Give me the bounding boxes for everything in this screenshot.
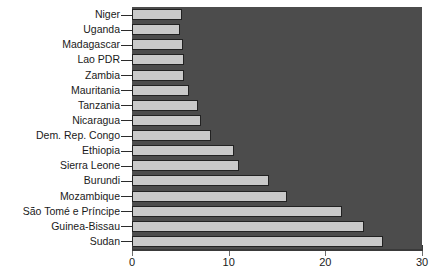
bar bbox=[132, 236, 383, 247]
category-label: Dem. Rep. Congo bbox=[0, 130, 120, 141]
category-tick bbox=[121, 105, 132, 106]
bar bbox=[132, 160, 239, 171]
category-tick bbox=[121, 226, 132, 227]
category-tick bbox=[121, 241, 132, 242]
bar bbox=[132, 115, 201, 126]
category-tick bbox=[121, 196, 132, 197]
category-tick bbox=[121, 120, 132, 121]
category-label: Sierra Leone bbox=[0, 160, 120, 171]
x-tick-label: 10 bbox=[223, 256, 235, 268]
category-tick bbox=[121, 30, 132, 31]
bar bbox=[132, 100, 198, 111]
bar bbox=[132, 206, 342, 217]
category-tick bbox=[121, 15, 132, 16]
plot-area bbox=[132, 7, 422, 249]
category-label: Lao PDR bbox=[0, 54, 120, 65]
category-tick bbox=[121, 181, 132, 182]
category-label: Nicaragua bbox=[0, 115, 120, 126]
x-tick-label: 20 bbox=[319, 256, 331, 268]
category-label: Tanzania bbox=[0, 100, 120, 111]
category-label: Ethiopia bbox=[0, 145, 120, 156]
category-tick bbox=[121, 75, 132, 76]
category-label: Madagascar bbox=[0, 39, 120, 50]
category-label: Mozambique bbox=[0, 191, 120, 202]
bar bbox=[132, 221, 364, 232]
bar bbox=[132, 145, 234, 156]
bar bbox=[132, 175, 269, 186]
bar bbox=[132, 39, 183, 50]
category-tick bbox=[121, 136, 132, 137]
category-tick bbox=[121, 90, 132, 91]
bar bbox=[132, 54, 184, 65]
x-tick-label: 0 bbox=[129, 256, 135, 268]
category-tick bbox=[121, 151, 132, 152]
bar bbox=[132, 85, 189, 96]
category-label: Sudan bbox=[0, 236, 120, 247]
bar bbox=[132, 191, 287, 202]
bar bbox=[132, 9, 182, 20]
category-axis-labels: NigerUgandaMadagascarLao PDRZambiaMaurit… bbox=[0, 7, 120, 249]
bar bbox=[132, 70, 184, 81]
x-tick-label: 30 bbox=[416, 256, 428, 268]
category-tick bbox=[121, 166, 132, 167]
bar bbox=[132, 130, 211, 141]
category-label: Zambia bbox=[0, 70, 120, 81]
category-label: Guinea-Bissau bbox=[0, 221, 120, 232]
bar bbox=[132, 24, 180, 35]
category-label: Burundi bbox=[0, 175, 120, 186]
category-tick bbox=[121, 60, 132, 61]
category-label: Mauritania bbox=[0, 85, 120, 96]
category-label: São Tomé e Príncipe bbox=[0, 206, 120, 217]
category-label: Uganda bbox=[0, 24, 120, 35]
category-tick bbox=[121, 45, 132, 46]
x-axis-tick-labels: 0102030 bbox=[132, 256, 423, 272]
category-label: Niger bbox=[0, 9, 120, 20]
chart-title-cropped bbox=[0, 0, 430, 7]
bar-chart: NigerUgandaMadagascarLao PDRZambiaMaurit… bbox=[0, 0, 430, 279]
category-tick bbox=[121, 211, 132, 212]
